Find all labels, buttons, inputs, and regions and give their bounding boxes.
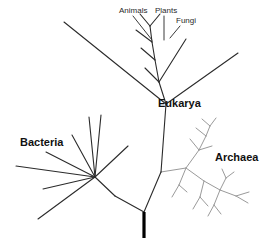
archaea-branch-24: [208, 205, 214, 216]
archaea-branch-15: [236, 192, 249, 196]
tip-label-plants: Plants: [155, 6, 177, 15]
tip-label-fungi: Fungi: [176, 16, 196, 25]
bacteria-eukarya-branch-group: [16, 14, 238, 219]
animals-leader: [133, 16, 152, 40]
archaea-branch-1: [186, 150, 199, 168]
tree-branch-13: [95, 115, 101, 177]
phylogenetic-tree-figure: AnimalsPlantsFungi BacteriaEukaryaArchae…: [0, 0, 269, 243]
archaea-branch-21: [193, 197, 200, 209]
archaea-branch-3: [206, 126, 210, 136]
tree-branch-3: [161, 104, 166, 172]
archaea-branch-group: [161, 118, 249, 216]
archaea-branch-14: [220, 190, 236, 196]
archaea-branch-20: [200, 181, 204, 197]
tree-branch-2: [144, 172, 161, 212]
archaea-branch-6: [202, 119, 210, 126]
tree-branch-14: [95, 146, 128, 177]
archaea-branch-13: [204, 181, 220, 190]
tree-branch-20: [136, 30, 152, 42]
archaea-branch-22: [200, 197, 208, 206]
tip-label-group: AnimalsPlantsFungi: [119, 6, 196, 25]
archaea-branch-11: [179, 185, 187, 192]
tree-branch-0: [115, 196, 144, 212]
tree-branch-1: [95, 177, 115, 196]
archaea-branch-4: [190, 139, 199, 150]
tree-branch-23: [159, 39, 186, 82]
archaea-branch-25: [214, 205, 221, 214]
archaea-branch-7: [210, 118, 216, 126]
archaea-branch-10: [172, 185, 179, 197]
domain-label-group: BacteriaEukaryaArchaea: [20, 97, 259, 163]
archaea-branch-19: [222, 169, 226, 178]
domain-label-archaea: Archaea: [215, 151, 259, 163]
tip-leader-line-group: [133, 16, 180, 40]
archaea-branch-18: [226, 172, 234, 178]
domain-label-eukarya: Eukarya: [158, 97, 202, 109]
archaea-branch-17: [220, 178, 226, 190]
archaea-branch-12: [186, 168, 204, 181]
domain-label-bacteria: Bacteria: [20, 136, 64, 148]
archaea-branch-9: [179, 168, 186, 185]
tip-label-animals: Animals: [119, 6, 147, 15]
archaea-branch-23: [214, 190, 220, 205]
archaea-branch-5: [196, 128, 206, 136]
tree-of-life-diagram: AnimalsPlantsFungi BacteriaEukaryaArchae…: [0, 0, 269, 243]
fungi-leader: [170, 26, 180, 38]
archaea-branch-16: [236, 196, 248, 203]
tree-branch-21: [140, 14, 150, 26]
archaea-branch-0: [161, 168, 186, 172]
tree-branch-22: [150, 14, 160, 26]
